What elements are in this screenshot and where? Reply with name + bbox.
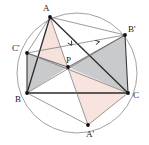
vertex-label-Ap: A': [86, 129, 94, 139]
vertex-label-B: B: [15, 94, 21, 104]
vertex-point-Ap: [86, 123, 90, 127]
vertex-point-C: [126, 91, 130, 95]
vertex-label-Bp: B': [128, 24, 136, 34]
arrow-on-Cp-Bp: [95, 40, 99, 45]
vertex-point-A: [48, 15, 52, 19]
shaded-regions-layer: [27, 17, 128, 125]
vertex-label-A: A: [43, 3, 50, 13]
geometry-figure: ABCPA'B'C': [0, 0, 149, 145]
vertex-point-Cp: [25, 51, 29, 55]
vertex-point-B: [25, 91, 29, 95]
vertex-point-Bp: [123, 33, 127, 37]
vertex-point-P: [66, 65, 70, 69]
vertex-label-C: C: [133, 90, 139, 100]
vertex-label-P: P: [66, 55, 71, 65]
geometry-canvas: ABCPA'B'C': [0, 0, 149, 145]
vertex-label-Cp: C': [12, 43, 20, 53]
arrow-markers-layer: [68, 40, 100, 47]
